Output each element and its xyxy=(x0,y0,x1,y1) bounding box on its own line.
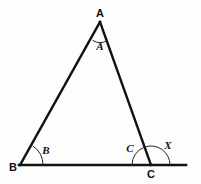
geometry-figure: A B C A B C X xyxy=(0,0,201,184)
vertex-label-b: B xyxy=(9,161,17,173)
vertex-label-a: A xyxy=(96,7,104,19)
angle-label-a: A xyxy=(95,40,103,52)
angle-arc-c-interior xyxy=(132,147,144,165)
triangle-diagram-canvas: A B C A B C X xyxy=(0,0,201,184)
angle-label-b: B xyxy=(41,144,49,156)
angle-label-x: X xyxy=(163,139,172,151)
vertex-label-c: C xyxy=(147,168,155,180)
angle-label-c: C xyxy=(126,142,134,154)
side-ab xyxy=(20,22,100,165)
